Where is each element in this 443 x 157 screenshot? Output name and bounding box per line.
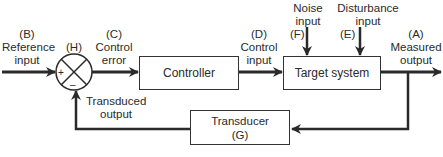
noise-input-label: Noise input xyxy=(288,2,328,28)
control-input-label: (D) Control input xyxy=(239,28,279,67)
plus-sign: + xyxy=(58,66,64,79)
controller-block: Controller xyxy=(139,56,239,90)
disturbance-input-label: Disturbance input xyxy=(333,2,403,28)
target-system-block: Target system xyxy=(283,56,381,90)
control-error-label: (C) Control error xyxy=(94,28,134,67)
measured-output-label: (A) Measured output xyxy=(390,28,442,67)
transducer-block: Transducer (G) xyxy=(190,110,290,145)
transducer-label: Transducer xyxy=(211,114,269,128)
transducer-tag: (G) xyxy=(232,128,249,142)
summing-junction-tag: (H) xyxy=(62,41,86,54)
transduced-output-label: Transduced output xyxy=(86,95,146,121)
disturbance-input-tag: (E) xyxy=(340,28,355,41)
controller-label: Controller xyxy=(163,66,215,80)
reference-input-label: (B) Reference input xyxy=(2,28,52,67)
minus-sign: – xyxy=(70,78,76,91)
target-system-label: Target system xyxy=(295,66,370,80)
noise-input-tag: (F) xyxy=(290,28,305,41)
